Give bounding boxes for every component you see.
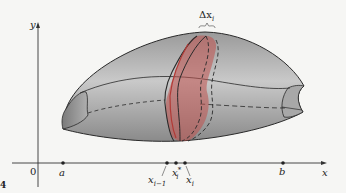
point-a-label: a: [59, 168, 65, 178]
y-axis-arrow: [36, 22, 40, 28]
point-b: [281, 161, 285, 165]
delta-x-i-label: Δxi: [199, 10, 214, 23]
point-b-label: b: [279, 167, 285, 177]
x-axis-label: x: [322, 168, 328, 178]
y-axis-label: y: [30, 20, 36, 30]
solid-of-revolution-diagram: [0, 0, 346, 193]
delta-x-base: Δx: [199, 9, 212, 20]
point-a: [61, 161, 65, 165]
x-i-minus-1-sub: i−1: [154, 180, 167, 188]
x-i-label: xi: [186, 175, 194, 188]
origin-label: 0: [30, 167, 36, 177]
point-x-i-minus-1: [165, 161, 169, 165]
delta-x-sub: i: [212, 15, 214, 23]
point-x-i-star: [174, 161, 178, 165]
delta-brace: [199, 23, 215, 28]
edge-figure-number: 4: [0, 181, 6, 190]
x-i-star-label: x*i: [172, 167, 178, 181]
x-i-sub: i: [192, 180, 194, 188]
point-x-i: [183, 161, 187, 165]
x-i-star-sup: *: [178, 166, 182, 174]
x-i-minus-1-label: xi−1: [148, 175, 166, 188]
x-i-star-sub: i: [176, 173, 178, 181]
x-axis-arrow: [321, 161, 327, 165]
